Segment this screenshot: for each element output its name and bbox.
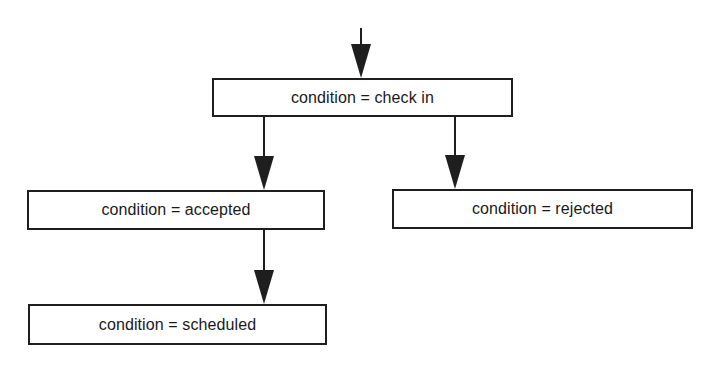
node-rejected: condition = rejected — [392, 189, 693, 229]
node-label: condition = accepted — [101, 201, 250, 219]
arrow-check-in-to-rejected — [445, 116, 465, 189]
node-scheduled: condition = scheduled — [28, 304, 327, 345]
arrow-check-in-to-accepted — [254, 116, 274, 190]
node-label: condition = scheduled — [99, 316, 256, 334]
arrowhead-icon — [445, 155, 465, 189]
arrowhead-icon — [254, 156, 274, 190]
node-check-in: condition = check in — [212, 78, 513, 117]
arrowhead-icon — [351, 44, 371, 78]
arrowhead-icon — [254, 270, 274, 304]
node-label: condition = rejected — [472, 200, 613, 218]
arrow-accepted-to-scheduled — [254, 229, 274, 304]
arrow-entry-to-check-in — [351, 28, 371, 78]
node-label: condition = check in — [291, 89, 434, 107]
node-accepted: condition = accepted — [27, 190, 325, 230]
